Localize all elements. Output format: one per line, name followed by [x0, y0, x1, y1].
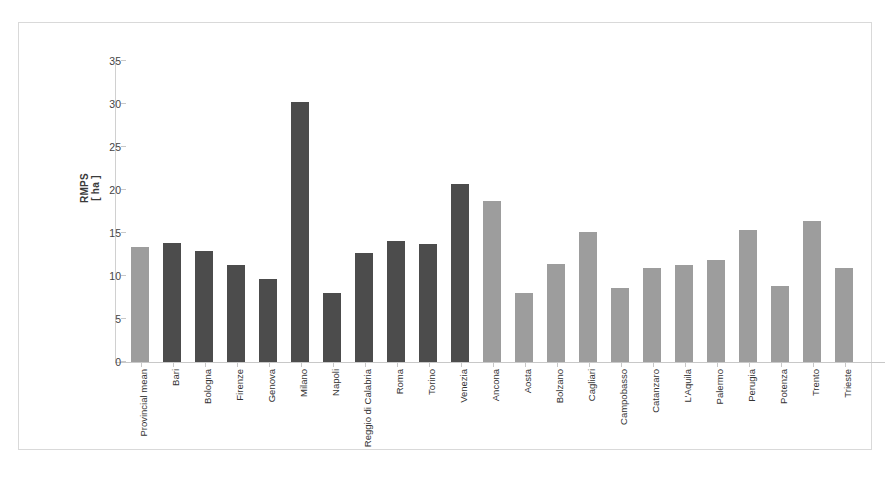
x-axis-tick-label: Bari: [169, 369, 182, 482]
bar-slot: [156, 61, 188, 362]
x-axis-tick-mark: [845, 363, 846, 367]
x-axis-tick-mark: [429, 363, 430, 367]
chart-frame: RMPS [ ha ] 05101520253035 Provincial me…: [18, 22, 872, 450]
bar-slot: [764, 61, 796, 362]
x-axis-tick-mark: [301, 363, 302, 367]
bar-slot: [476, 61, 508, 362]
x-axis-tick-label: Cagliari: [585, 369, 598, 482]
bar-slot: [348, 61, 380, 362]
x-axis-tick-label: Bologna: [201, 369, 214, 482]
bar-slot: [828, 61, 860, 362]
x-axis-tick-mark: [589, 363, 590, 367]
bar[interactable]: [579, 232, 597, 362]
x-axis-tick-label: Bolzano: [553, 369, 566, 482]
bar-slot: [508, 61, 540, 362]
bar[interactable]: [387, 241, 405, 362]
bar-slot: [316, 61, 348, 362]
bar-slot: [700, 61, 732, 362]
bar[interactable]: [771, 286, 789, 362]
x-axis-tick-mark: [653, 363, 654, 367]
x-axis-tick-mark: [781, 363, 782, 367]
x-axis-tick-mark: [397, 363, 398, 367]
bar[interactable]: [643, 268, 661, 362]
bar-slot: [668, 61, 700, 362]
bar[interactable]: [483, 201, 501, 362]
x-axis-tick-mark: [333, 363, 334, 367]
bar[interactable]: [355, 253, 373, 362]
y-axis-tick-label: 5: [75, 313, 121, 325]
x-axis-tick-label: Palermo: [713, 369, 726, 482]
x-axis-tick-mark: [749, 363, 750, 367]
y-axis-tick-label: 10: [75, 270, 121, 282]
bar-slot: [572, 61, 604, 362]
y-axis-tick-label: 35: [75, 55, 121, 67]
x-axis-tick-label: Genova: [265, 369, 278, 482]
x-axis-tick-mark: [461, 363, 462, 367]
bar-slot: [636, 61, 668, 362]
x-axis-tick-mark: [237, 363, 238, 367]
bar[interactable]: [195, 251, 213, 362]
x-axis-tick-mark: [365, 363, 366, 367]
x-axis-tick-label: Aosta: [521, 369, 534, 482]
bar[interactable]: [163, 243, 181, 362]
bar[interactable]: [259, 279, 277, 362]
bar-slot: [220, 61, 252, 362]
bar-slot: [124, 61, 156, 362]
bar[interactable]: [227, 265, 245, 362]
plot-area: [116, 61, 884, 362]
x-axis-tick-label: Venezia: [457, 369, 470, 482]
bar[interactable]: [547, 264, 565, 362]
bar-slot: [540, 61, 572, 362]
bar-slot: [444, 61, 476, 362]
x-axis-tick-label: Campobasso: [617, 369, 630, 482]
bar[interactable]: [323, 293, 341, 362]
x-axis-tick-label: Torino: [425, 369, 438, 482]
x-axis-tick-mark: [269, 363, 270, 367]
x-axis-tick-label: Reggio di Calabria: [361, 369, 374, 482]
y-axis-tick-label: 25: [75, 141, 121, 153]
bar[interactable]: [675, 265, 693, 362]
bar-slot: [252, 61, 284, 362]
bar[interactable]: [131, 247, 149, 362]
x-axis-tick-label: Roma: [393, 369, 406, 482]
y-axis-tick-label: 15: [75, 227, 121, 239]
y-axis-tick-label: 0: [75, 356, 121, 368]
bar-slot: [188, 61, 220, 362]
x-axis-tick-mark: [685, 363, 686, 367]
x-axis-tick-label: L'Aquila: [681, 369, 694, 482]
y-axis-tick-label: 20: [75, 184, 121, 196]
x-axis-tick-label: Firenze: [233, 369, 246, 482]
bar[interactable]: [291, 102, 309, 362]
bar[interactable]: [451, 184, 469, 362]
bar-slot: [796, 61, 828, 362]
x-axis-tick-label: Napoli: [329, 369, 342, 482]
x-axis-tick-label: Ancona: [489, 369, 502, 482]
bar[interactable]: [739, 230, 757, 362]
x-axis-tick-mark: [621, 363, 622, 367]
x-axis-tick-mark: [525, 363, 526, 367]
x-axis-tick-label: Catanzaro: [649, 369, 662, 482]
x-axis-tick-mark: [173, 363, 174, 367]
bar-slot: [380, 61, 412, 362]
bar[interactable]: [419, 244, 437, 362]
x-axis-tick-mark: [557, 363, 558, 367]
bar[interactable]: [835, 268, 853, 362]
x-axis-tick-label: Trieste: [841, 369, 854, 482]
x-axis-tick-mark: [205, 363, 206, 367]
x-axis-line: [115, 362, 885, 363]
bar[interactable]: [515, 293, 533, 362]
x-axis-tick-label: Potenza: [777, 369, 790, 482]
x-axis-tick-label: Milano: [297, 369, 310, 482]
bar-slot: [732, 61, 764, 362]
bar-slot: [284, 61, 316, 362]
y-axis-tick-label: 30: [75, 98, 121, 110]
x-axis-tick-mark: [717, 363, 718, 367]
x-axis-tick-label: Provincial mean: [137, 369, 150, 482]
x-axis-tick-mark: [813, 363, 814, 367]
x-axis-tick-mark: [141, 363, 142, 367]
bar-slot: [604, 61, 636, 362]
bar[interactable]: [707, 260, 725, 362]
bar[interactable]: [611, 288, 629, 362]
bar[interactable]: [803, 221, 821, 362]
x-axis-tick-label: Trento: [809, 369, 822, 482]
